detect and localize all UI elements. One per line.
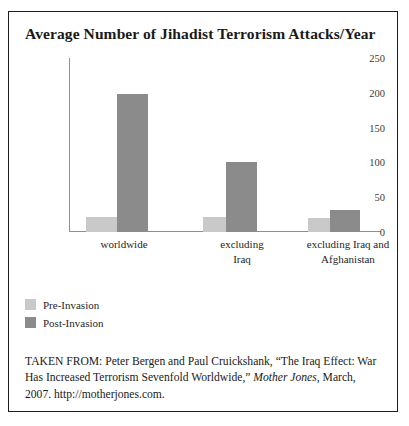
- source-publication: Mother Jones: [253, 371, 316, 384]
- category-label-1: excludingIraq: [189, 237, 295, 266]
- x-axis-category-labels: worldwideexcludingIraqexcluding Iraq and…: [21, 237, 385, 281]
- legend-item-0: Pre-Invasion: [25, 297, 104, 312]
- category-label-line: worldwide: [69, 237, 179, 252]
- bar-pre-invasion-2: [308, 218, 330, 232]
- bar-pre-invasion-1: [203, 217, 226, 232]
- bar-post-invasion-0: [117, 94, 148, 232]
- category-label-line: Iraq: [189, 252, 295, 267]
- legend-label: Post-Invasion: [43, 317, 104, 329]
- plot-area: 250200150100500: [21, 58, 385, 243]
- category-label-0: worldwide: [69, 237, 179, 252]
- legend-swatch-icon: [25, 299, 36, 310]
- source-note: TAKEN FROM: Peter Bergen and Paul Cruick…: [25, 354, 381, 403]
- bar-pre-invasion-0: [86, 217, 117, 232]
- page-title: Average Number of Jihadist Terrorism Att…: [25, 25, 376, 43]
- legend-label: Pre-Invasion: [43, 299, 99, 311]
- category-label-line: Afghanistan: [283, 252, 409, 267]
- figure-frame: Average Number of Jihadist Terrorism Att…: [8, 11, 398, 412]
- category-label-line: excluding Iraq and: [283, 237, 409, 252]
- bars-layer: [70, 58, 381, 232]
- legend-item-1: Post-Invasion: [25, 315, 104, 330]
- bar-post-invasion-1: [226, 162, 257, 232]
- category-label-line: excluding: [189, 237, 295, 252]
- legend: Pre-InvasionPost-Invasion: [25, 297, 104, 333]
- legend-swatch-icon: [25, 317, 36, 328]
- category-label-2: excluding Iraq andAfghanistan: [283, 237, 409, 266]
- bar-post-invasion-2: [330, 210, 360, 232]
